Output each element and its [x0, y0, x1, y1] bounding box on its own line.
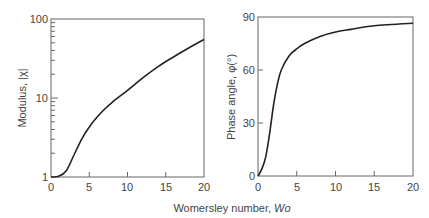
x-tick-5: 5	[86, 181, 92, 193]
x-tick-20: 20	[198, 181, 210, 193]
x-tick-10: 10	[121, 181, 133, 193]
x-label-variable: Wo	[274, 202, 291, 214]
phase-plot-frame	[258, 17, 413, 176]
y-tick-90: 90	[243, 11, 255, 23]
x-tick-10: 10	[330, 181, 342, 193]
y-tick-100: 100	[30, 13, 48, 25]
x-tick-0: 0	[48, 181, 54, 193]
x-tick-20: 20	[407, 181, 419, 193]
phase-plot: 0 30 60 90 0 5 10 15 20 Phase angle, φ(°…	[225, 11, 419, 193]
x-tick-15: 15	[160, 181, 172, 193]
modulus-curve	[51, 40, 204, 178]
y-tick-10: 10	[36, 92, 48, 104]
x-tick-15: 15	[368, 181, 380, 193]
modulus-y-axis-label: Modulus, |χ|	[16, 68, 28, 127]
x-label-text: Womersley number,	[173, 202, 274, 214]
modulus-plot: 1 10 100 0 5 10 15 20 Modulus, |χ|	[16, 13, 210, 193]
shared-x-axis-label: Womersley number, Wo	[173, 202, 290, 214]
x-tick-0: 0	[255, 181, 261, 193]
phase-curve	[258, 23, 413, 176]
x-tick-5: 5	[294, 181, 300, 193]
figure: 1 10 100 0 5 10 15 20 Modulus, |χ| 0 30 …	[0, 0, 429, 218]
phase-y-axis-label: Phase angle, φ(°)	[225, 54, 237, 140]
y-tick-60: 60	[243, 64, 255, 76]
phase-axis-ticks	[258, 70, 374, 176]
modulus-axis-ticks	[51, 23, 166, 177]
y-tick-30: 30	[243, 117, 255, 129]
